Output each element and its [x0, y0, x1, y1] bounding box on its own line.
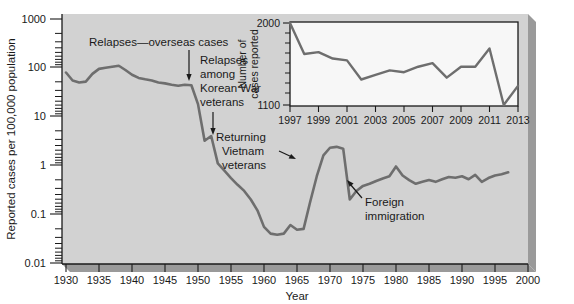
annotation-label: Vietnam [222, 145, 264, 157]
inset-xtick-label: 2001 [335, 114, 359, 126]
inset-xtick-label: 2011 [478, 114, 501, 126]
inset-y-axis-title-line2: cases reported [248, 29, 260, 99]
main-ytick-label-10: 10 [34, 110, 46, 122]
main-xtick-label: 1950 [186, 274, 210, 286]
figure-container: 1000 100 10 1 0.1 0.01 Reported cases pe… [0, 0, 574, 304]
main-xtick-label: 1965 [285, 274, 309, 286]
inset-xtick-label: 2005 [392, 114, 416, 126]
inset-xtick-label: 2003 [364, 114, 388, 126]
main-ytick-label-1: 1 [40, 159, 46, 171]
main-xtick-label: 2000 [516, 274, 540, 286]
annotation-label: Foreign [365, 196, 404, 208]
main-xtick-label: 1970 [318, 274, 342, 286]
inset-xtick-label: 2013 [506, 114, 530, 126]
inset-ytick-label-1100: 1100 [257, 99, 280, 111]
annotation-label: Relapses—overseas cases [89, 36, 229, 48]
inset-xtick-labels: 1997 1999 2001 2003 2005 2007 2009 2011 … [278, 114, 530, 126]
main-xtick-label: 1975 [351, 274, 375, 286]
main-xtick-label: 1935 [87, 274, 111, 286]
inset-xtick-label: 2009 [449, 114, 473, 126]
main-xtick-label: 1945 [153, 274, 177, 286]
main-xtick-label: 1960 [252, 274, 276, 286]
main-xtick-label: 1985 [417, 274, 441, 286]
inset-ytick-label-2000: 2000 [257, 17, 281, 29]
chart-svg: 1000 100 10 1 0.1 0.01 Reported cases pe… [0, 0, 574, 304]
inset-xtick-label: 1999 [307, 114, 331, 126]
panel-shadow-right [528, 14, 536, 272]
inset-y-axis-title-line1: Number of [236, 39, 248, 88]
main-xtick-label: 1955 [219, 274, 243, 286]
main-xtick-label: 1930 [54, 274, 78, 286]
main-xtick-labels: 1930 1935 1940 1945 1950 1955 1960 1965 … [54, 274, 540, 286]
annotation-label: among [200, 68, 235, 80]
main-ytick-label-0.01: 0.01 [25, 257, 46, 269]
annotation-label: veterans [200, 96, 244, 108]
main-ytick-label-100: 100 [28, 61, 46, 73]
inset-xtick-label: 1997 [278, 114, 302, 126]
main-ytick-label-0.1: 0.1 [31, 208, 46, 220]
annotation-label: immigration [365, 210, 424, 222]
main-y-ticks [50, 19, 62, 263]
inset-plot-area [290, 22, 518, 106]
main-xtick-label: 1990 [450, 274, 474, 286]
annotation-label: veterans [222, 159, 266, 171]
main-ytick-label-1000: 1000 [22, 13, 46, 25]
panel-shadow-bottom [62, 264, 536, 272]
main-xtick-label: 1995 [483, 274, 507, 286]
main-y-axis-title: Reported cases per 100,000 population [5, 38, 17, 239]
main-xtick-label: 1940 [120, 274, 144, 286]
annotation-label: Returning [216, 131, 266, 143]
main-x-axis-title: Year [285, 290, 308, 302]
inset-xtick-label: 2007 [421, 114, 445, 126]
main-xtick-label: 1980 [384, 274, 408, 286]
